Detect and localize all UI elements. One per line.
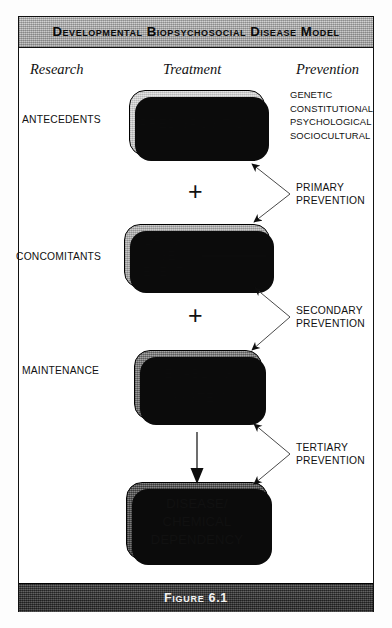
node-drug-use-line2: USE [150, 249, 176, 263]
risk-factor-item: PSYCHOLOGICAL [290, 115, 373, 129]
plus-operator-1: + [188, 179, 203, 204]
node-drug-use-progression: PROGRESSION [199, 257, 268, 269]
node-drug-use-line3: (EVENT) [139, 265, 188, 279]
stage-label-concomitants: CONCOMITANTS [16, 251, 101, 262]
prevention-tertiary-line2: PREVENTION [296, 454, 365, 467]
page-title: Developmental Biopsychosocial Disease Mo… [52, 25, 339, 38]
node-disease-line1: DISEASE/ [166, 496, 228, 511]
node-enabling-line1: ENABLING [164, 366, 232, 381]
column-header-research: Research [30, 61, 83, 78]
figure-title-bar: Developmental Biopsychosocial Disease Mo… [19, 17, 373, 48]
prevention-label-primary: PRIMARY PREVENTION [296, 181, 365, 208]
node-disease-line3: DEPENDENCY [151, 532, 243, 547]
column-header-treatment: Treatment [163, 61, 221, 78]
node-drug-use: DRUG USE (EVENT) INITIATION PROGRESSION [124, 224, 270, 288]
stage-label-maintenance: MAINTENANCE [22, 365, 99, 376]
risk-factor-item: SOCIOCULTURAL [290, 129, 373, 143]
column-header-prevention: Prevention [296, 61, 359, 78]
prevention-tertiary-line1: TERTIARY [296, 441, 365, 454]
plus-operator-2: + [188, 303, 203, 328]
node-enabling-line2: SYSTEM [170, 390, 225, 405]
prevention-secondary-line2: PREVENTION [296, 317, 365, 330]
node-predisposition: PREDISPOSITION [129, 90, 265, 156]
prevention-primary-line2: PREVENTION [296, 194, 365, 207]
node-drug-use-sublabels: INITIATION PROGRESSION [199, 243, 268, 268]
risk-factor-item: GENETIC [290, 88, 373, 102]
node-drug-use-main: DRUG USE (EVENT) [129, 234, 197, 279]
figure-caption-bar: Figure 6.1 [19, 583, 373, 612]
prevention-primary-line1: PRIMARY [296, 181, 365, 194]
node-disease-dependency: DISEASE/ CHEMICAL DEPENDENCY [126, 482, 268, 560]
prevention-label-secondary: SECONDARY PREVENTION [296, 304, 365, 331]
risk-factor-list: GENETIC CONSTITUTIONAL PSYCHOLOGICAL SOC… [290, 88, 373, 143]
prevention-label-tertiary: TERTIARY PREVENTION [296, 441, 365, 468]
node-drug-use-initiation: INITIATION [210, 243, 258, 255]
node-disease-line2: CHEMICAL [163, 514, 232, 529]
prevention-secondary-line1: SECONDARY [296, 304, 365, 317]
node-enabling-system: ENABLING SYSTEM [134, 350, 262, 420]
node-drug-use-line1: DRUG [144, 234, 181, 248]
risk-factor-item: CONSTITUTIONAL [290, 102, 373, 116]
figure-container: Developmental Biopsychosocial Disease Mo… [0, 0, 392, 628]
stage-label-antecedents: ANTECEDENTS [22, 114, 101, 125]
node-predisposition-label: PREDISPOSITION [140, 116, 255, 131]
figure-caption: Figure 6.1 [164, 591, 228, 605]
